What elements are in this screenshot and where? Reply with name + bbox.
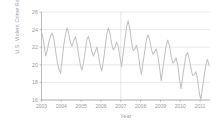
x-tick-label-2011: 2011 [195, 103, 206, 109]
x-tick-label-2007: 2007 [115, 103, 126, 109]
x-tick-label-2005: 2005 [76, 103, 87, 109]
series-line-0 [42, 21, 204, 100]
axes-group [42, 12, 211, 100]
y-tick-label-20: 20 [32, 62, 38, 68]
x-tick-label-2003: 2003 [36, 103, 47, 109]
x-tick-label-2010: 2010 [175, 103, 186, 109]
x-tick-label-2009: 2009 [155, 103, 166, 109]
plot-area: 161820222426 200320042005200620072008200… [0, 0, 224, 126]
chart-container: U.S. Violent Crime Rate Year 16182022242… [0, 0, 224, 126]
line-chart-svg: 161820222426 200320042005200620072008200… [0, 0, 224, 126]
series-line-1 [204, 60, 209, 76]
x-tick-label-2004: 2004 [56, 103, 67, 109]
x-tick-labels-group: 200320042005200620072008200920102011 [36, 100, 206, 109]
y-tick-label-24: 24 [32, 27, 38, 33]
gridlines-group [42, 12, 211, 100]
y-tick-label-26: 26 [32, 9, 38, 15]
data-series-group [42, 21, 209, 100]
y-tick-label-22: 22 [32, 44, 38, 50]
x-tick-label-2008: 2008 [135, 103, 146, 109]
y-tick-label-18: 18 [32, 79, 38, 85]
y-tick-labels-group: 161820222426 [32, 9, 42, 103]
x-tick-label-2006: 2006 [95, 103, 106, 109]
